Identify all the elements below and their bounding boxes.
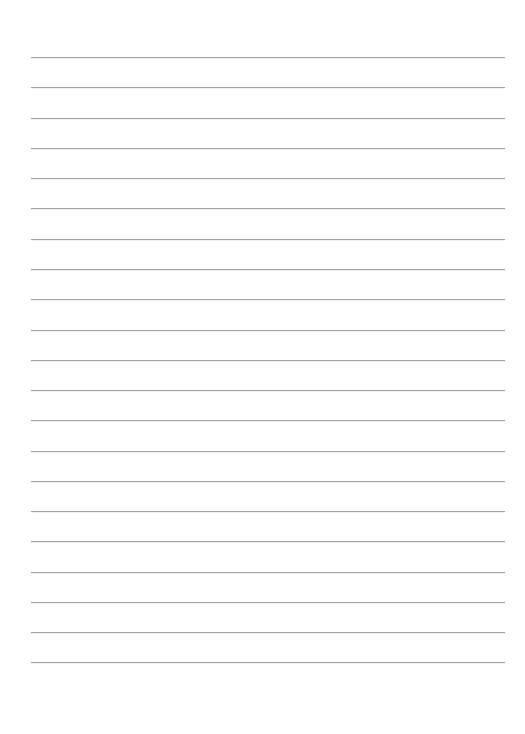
rule-line xyxy=(31,178,505,179)
rule-line xyxy=(31,602,505,603)
rule-line xyxy=(31,208,505,209)
rule-line xyxy=(31,572,505,573)
rule-line xyxy=(31,481,505,482)
rule-line xyxy=(31,299,505,300)
lined-paper-page xyxy=(0,0,525,734)
rule-line xyxy=(31,57,505,58)
rule-line xyxy=(31,632,505,633)
ruled-writing-area[interactable] xyxy=(0,0,525,734)
rule-line xyxy=(31,118,505,119)
rule-line xyxy=(31,269,505,270)
rule-line xyxy=(31,360,505,361)
rule-line xyxy=(31,87,505,88)
rule-line xyxy=(31,239,505,240)
rule-line xyxy=(31,390,505,391)
rule-line xyxy=(31,420,505,421)
rule-line xyxy=(31,541,505,542)
footer-zone xyxy=(0,668,525,734)
rule-line xyxy=(31,511,505,512)
rule-line xyxy=(31,148,505,149)
rule-line xyxy=(31,451,505,452)
rule-line xyxy=(31,330,505,331)
rule-line xyxy=(31,662,505,663)
